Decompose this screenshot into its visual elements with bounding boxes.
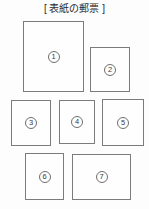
stamp-number-3: 3 (25, 117, 37, 129)
stamp-box-7: 7 (72, 154, 131, 200)
stamp-number-6: 6 (39, 171, 51, 183)
stamp-number-7: 7 (96, 171, 108, 183)
stamp-number-4: 4 (71, 116, 83, 128)
scan-page: [ 表紙の郵票 ] 1234567 (0, 0, 149, 209)
stamp-box-3: 3 (11, 100, 51, 146)
stamp-box-6: 6 (25, 153, 64, 200)
stamp-box-2: 2 (90, 47, 130, 92)
stamp-number-5: 5 (117, 117, 129, 129)
stamp-box-5: 5 (102, 99, 144, 146)
stamp-box-4: 4 (59, 100, 95, 144)
stamp-number-2: 2 (104, 64, 116, 76)
stamp-box-1: 1 (23, 21, 84, 92)
stamp-area: 1234567 (0, 0, 149, 209)
stamp-number-1: 1 (48, 51, 60, 63)
